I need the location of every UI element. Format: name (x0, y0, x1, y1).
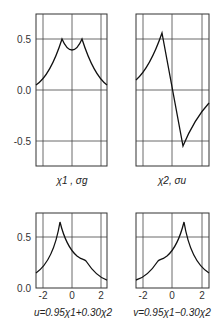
figure: 0.5 0.0 -0.5 χ1 , σg χ2, σu 0.5 0.0 -2 0… (0, 0, 218, 330)
panel-caption: u=0.95χ1+0.30χ2 (34, 307, 113, 318)
data-curve (36, 39, 107, 85)
data-curve (136, 33, 209, 146)
ytick-label: 0.0 (17, 283, 31, 294)
panel-bottom-right: -2 0 2 v=0.95χ1−0.30χ2 (133, 213, 211, 318)
data-curve (136, 222, 209, 280)
panel-top-right: χ2, σu (136, 14, 209, 186)
xtick-label: -2 (139, 290, 148, 301)
xtick-label: 2 (98, 290, 104, 301)
data-curve (36, 222, 107, 280)
panel-caption: χ1 , σg (56, 175, 88, 186)
panel-caption: v=0.95χ1−0.30χ2 (133, 307, 211, 318)
xtick-label: -2 (39, 290, 48, 301)
panel-top-left: 0.5 0.0 -0.5 χ1 , σg (14, 14, 107, 186)
panel-bottom-left: 0.5 0.0 -2 0 2 u=0.95χ1+0.30χ2 (17, 213, 112, 318)
xtick-label: 2 (199, 290, 205, 301)
ytick-label: 0.0 (17, 85, 31, 96)
ytick-label: 0.5 (17, 232, 31, 243)
xtick-label: 0 (169, 290, 175, 301)
panel-caption: χ2, σu (157, 175, 187, 186)
xtick-label: 0 (69, 290, 75, 301)
ytick-label: 0.5 (17, 34, 31, 45)
ytick-label: -0.5 (14, 136, 32, 147)
